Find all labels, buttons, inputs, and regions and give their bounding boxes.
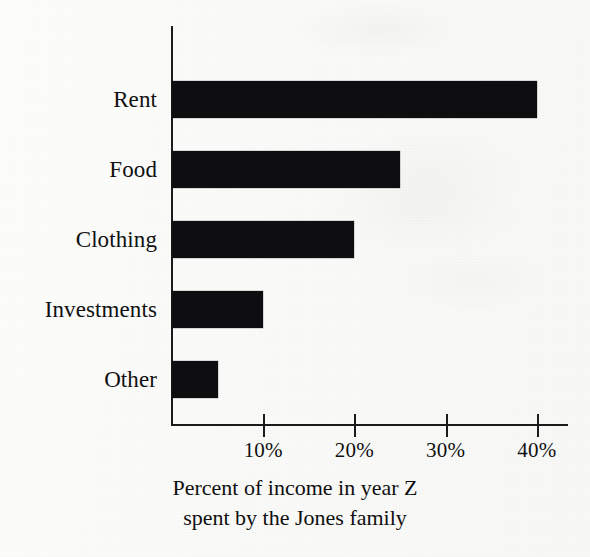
caption-line-1: Percent of income in year Z [0,473,590,503]
x-axis-line [171,424,568,426]
bar-other [172,361,218,398]
category-label-food: Food [0,157,157,183]
x-tick-40 [537,414,539,437]
caption-line-2: spent by the Jones family [0,503,590,533]
bar-row-rent: Rent [0,81,590,118]
x-tick-label-40: 40% [497,438,577,463]
category-label-clothing: Clothing [0,227,157,253]
bar-investments [172,291,263,328]
x-tick-30 [446,414,448,437]
bar-row-food: Food [0,151,590,188]
category-label-other: Other [0,367,157,393]
x-tick-label-30: 30% [406,438,486,463]
x-tick-label-10: 10% [223,438,303,463]
bar-chart-figure: Rent Food Clothing Investments Other 10%… [0,0,590,557]
x-tick-label-20: 20% [314,438,394,463]
bar-rent [172,81,537,118]
bar-food [172,151,400,188]
x-tick-10 [263,414,265,437]
category-label-rent: Rent [0,87,157,113]
bar-clothing [172,221,354,258]
category-label-investments: Investments [0,297,157,323]
x-axis-caption: Percent of income in year Z spent by the… [0,473,590,533]
bar-row-investments: Investments [0,291,590,328]
bar-row-clothing: Clothing [0,221,590,258]
bar-row-other: Other [0,361,590,398]
x-tick-20 [354,414,356,437]
